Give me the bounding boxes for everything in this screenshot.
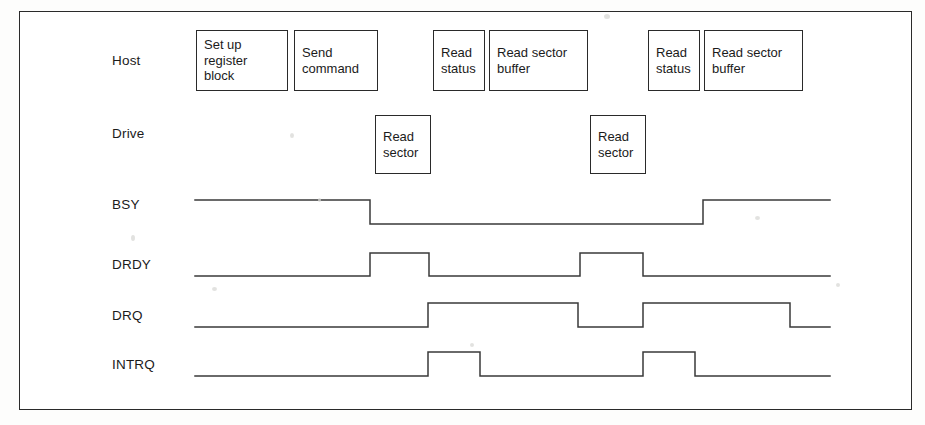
drive-box-label: Read sector <box>598 129 633 160</box>
scan-artifact <box>470 343 474 347</box>
host-box-label: Read status <box>656 45 691 76</box>
signal-label-drdy: DRDY <box>112 257 151 272</box>
host-box-label: Read sector buffer <box>497 45 567 76</box>
host-box-label: Set up register block <box>204 37 247 84</box>
host-box-label: Send command <box>302 45 359 76</box>
scan-artifact <box>836 283 840 287</box>
drive-box-label: Read sector <box>383 129 418 160</box>
timing-diagram-figure: Host Drive BSY DRDY DRQ INTRQ Set up reg… <box>0 0 925 425</box>
scan-artifact <box>212 287 217 291</box>
host-box-send-command: Send command <box>294 30 378 91</box>
signal-label-drq: DRQ <box>112 308 143 323</box>
host-box-label: Read sector buffer <box>712 45 782 76</box>
scan-artifact <box>755 216 760 220</box>
host-box-read-sector-buffer-2: Read sector buffer <box>704 30 803 91</box>
drive-box-read-sector-2: Read sector <box>590 115 646 174</box>
host-box-label: Read status <box>441 45 476 76</box>
host-box-read-status-2: Read status <box>648 30 700 91</box>
scan-artifact <box>131 235 135 241</box>
row-label-host: Host <box>112 53 141 68</box>
signal-label-intrq: INTRQ <box>112 357 155 372</box>
drive-box-read-sector-1: Read sector <box>375 115 431 174</box>
scan-artifact <box>318 198 321 202</box>
host-box-read-sector-buffer-1: Read sector buffer <box>489 30 588 91</box>
scan-artifact <box>290 133 294 138</box>
host-box-set-up-register-block: Set up register block <box>196 30 288 91</box>
row-label-drive: Drive <box>112 126 145 141</box>
scan-artifact <box>604 14 610 19</box>
signal-label-bsy: BSY <box>112 197 140 212</box>
host-box-read-status-1: Read status <box>433 30 485 91</box>
